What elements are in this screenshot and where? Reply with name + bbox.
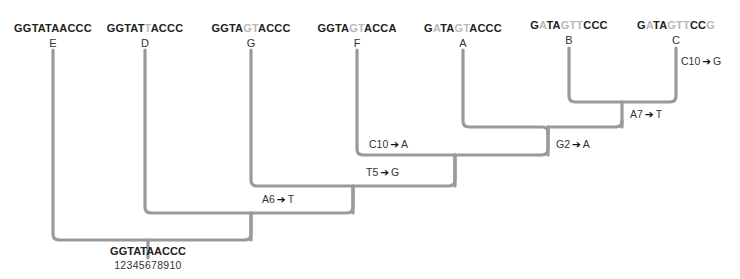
mutation-c10-g: C10➔G xyxy=(681,55,721,67)
leaf-sequence-c: GATAGTTCCG xyxy=(637,19,715,31)
root-position-index: 12345678910 xyxy=(114,259,182,271)
leaf-sequence-e: GGTATAACCC xyxy=(14,22,92,34)
arrow-right-icon: ➔ xyxy=(702,55,711,67)
mutation-a6-t: A6➔T xyxy=(262,193,294,205)
arrow-right-icon: ➔ xyxy=(380,166,389,178)
branch-d-g xyxy=(145,50,353,213)
arrow-right-icon: ➔ xyxy=(390,138,399,150)
root-sequence: GGTATAACCC xyxy=(110,245,186,257)
arrow-right-icon: ➔ xyxy=(277,193,286,205)
leaf-label-d: D xyxy=(141,37,149,49)
leaf-sequence-f: GGTAGTACCA xyxy=(317,22,396,34)
mutation-a7-t: A7➔T xyxy=(630,108,662,120)
arrow-right-icon: ➔ xyxy=(645,108,654,120)
leaf-label-a: A xyxy=(459,37,466,49)
arrow-right-icon: ➔ xyxy=(572,138,581,150)
leaf-sequence-g: GGTAGTACCC xyxy=(211,22,290,34)
leaf-sequence-b: GATAGTTCCC xyxy=(530,19,607,31)
mutation-c10-a: C10➔A xyxy=(369,138,408,150)
branch-g-fabc xyxy=(251,50,455,186)
branch-a-bc xyxy=(463,50,548,133)
mutation-t5-g: T5➔G xyxy=(366,166,399,178)
mutation-g2-a: G2➔A xyxy=(556,138,590,150)
leaf-sequence-a: GATAGTACCC xyxy=(424,22,502,34)
leaf-label-c: C xyxy=(672,34,680,46)
leaf-label-f: F xyxy=(354,37,361,49)
leaf-sequence-d: GGTATTACCC xyxy=(107,22,184,34)
branch-b-c xyxy=(569,48,676,102)
leaf-label-b: B xyxy=(565,34,572,46)
leaf-label-g: G xyxy=(247,37,256,49)
leaf-label-e: E xyxy=(49,37,56,49)
